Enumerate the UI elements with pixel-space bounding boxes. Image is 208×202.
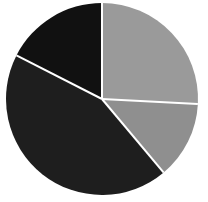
pie-chart-figure bbox=[0, 0, 208, 202]
pie-chart-svg bbox=[0, 0, 208, 202]
